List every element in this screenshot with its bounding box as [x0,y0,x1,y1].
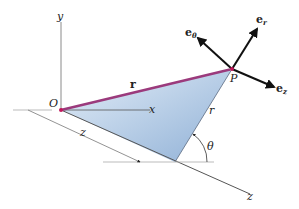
cylindrical-coordinates-diagram: y x z O P r z r θ eθ er ez [0,0,299,209]
z-dimension-label: z [79,126,86,139]
origin-label: O [49,97,58,110]
origin-point [59,108,63,112]
e-r-label: er [256,13,268,27]
position-vector-label: r [130,78,136,91]
x-axis-label: x [149,103,156,116]
theta-arc [193,134,207,162]
e-r-vector [232,29,257,69]
e-z-label: ez [276,82,288,96]
point-p-label: P [229,72,238,85]
y-axis-label: y [56,10,64,23]
e-theta-vector [198,38,232,69]
e-theta-label: eθ [185,26,197,40]
z-axis-label: z [246,190,253,203]
e-z-vector [232,69,274,87]
point-p [230,67,234,71]
r-dimension-label: r [209,104,215,117]
theta-label: θ [207,140,214,153]
